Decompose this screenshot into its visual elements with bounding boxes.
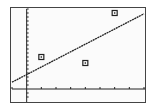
data-point-center xyxy=(41,56,42,57)
data-point-center xyxy=(114,12,115,13)
scatter-plot xyxy=(0,0,153,108)
data-point-center xyxy=(85,62,86,63)
regression-line xyxy=(12,14,144,82)
